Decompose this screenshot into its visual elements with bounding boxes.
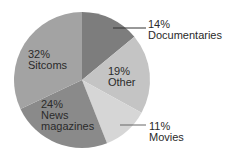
label-name: Sitcoms — [28, 60, 67, 71]
label-news-magazines: 24% News magazines — [41, 99, 94, 132]
label-movies: 11% Movies — [149, 121, 184, 143]
label-name-2: magazines — [41, 121, 94, 132]
label-name: Documentaries — [148, 30, 222, 41]
label-documentaries: 14% Documentaries — [148, 19, 222, 41]
label-sitcoms: 32% Sitcoms — [28, 49, 67, 71]
label-name: Other — [108, 77, 136, 88]
label-name: Movies — [149, 132, 184, 143]
label-other: 19% Other — [108, 66, 136, 88]
